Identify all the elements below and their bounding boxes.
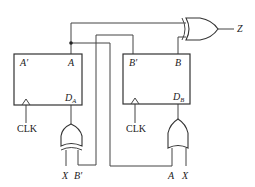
- ffa-clk-label: CLK: [17, 123, 38, 134]
- wire-a-to-xor-z: [71, 23, 186, 54]
- ffb-qbar-label: B′: [129, 57, 138, 68]
- or-b-input-x-label: X: [181, 170, 189, 181]
- ffb-q-label: B: [175, 57, 181, 68]
- ffa-qbar-label: A′: [19, 57, 29, 68]
- xor-gate-z: [182, 18, 218, 40]
- output-z-label: Z: [237, 23, 243, 34]
- xor-a-input-bprime-label: B′: [74, 170, 83, 181]
- junction-dot: [69, 41, 73, 45]
- xor-a-input-x-label: X: [61, 170, 69, 181]
- or-b-input-a-label: A: [167, 170, 175, 181]
- xor-gate-a: [61, 124, 82, 150]
- or-gate-b: [168, 119, 188, 148]
- ffa-q-label: A: [67, 57, 75, 68]
- ffb-clk-label: CLK: [126, 123, 147, 134]
- circuit-diagram: A′ A DA CLK B′ B DB CLK X B′ A X Z: [0, 0, 255, 187]
